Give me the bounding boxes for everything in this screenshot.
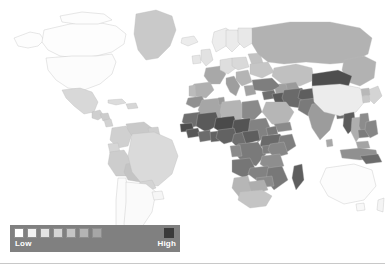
country-north-korea — [361, 88, 370, 96]
legend-swatch-5 — [79, 228, 89, 238]
country-hispaniola — [126, 103, 138, 109]
legend-swatch-6 — [92, 228, 102, 238]
country-gabon — [230, 145, 242, 157]
legend-swatch-3 — [53, 228, 63, 238]
legend-swatch-0 — [14, 228, 24, 238]
choropleth-world-map: Low High — [0, 0, 385, 268]
country-sri-lanka — [326, 139, 333, 147]
legend-swatch-4 — [66, 228, 76, 238]
country-ivory-coast — [198, 130, 212, 142]
legend-swatch-2 — [40, 228, 50, 238]
legend-swatch-1 — [27, 228, 37, 238]
map-legend: Low High — [10, 225, 180, 252]
legend-label-low: Low — [15, 239, 32, 249]
bottom-divider — [0, 263, 385, 264]
country-malaysia — [356, 141, 370, 149]
country-tasmania — [356, 203, 365, 211]
country-new-zealand — [377, 198, 384, 212]
country-ireland — [192, 55, 201, 64]
legend-gradient-swatches — [14, 228, 102, 238]
country-portugal — [189, 85, 196, 97]
legend-label-high: High — [157, 239, 176, 249]
country-south-korea — [362, 95, 370, 103]
country-uruguay — [152, 191, 164, 200]
legend-high-swatch — [164, 228, 174, 238]
country-russia — [252, 22, 372, 64]
